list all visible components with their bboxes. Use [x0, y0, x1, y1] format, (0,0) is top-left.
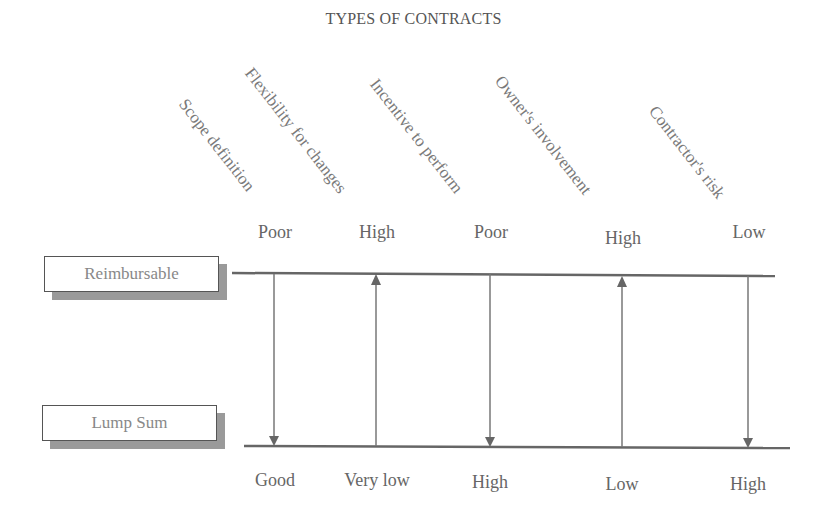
- contract-scale-graphic: [0, 0, 827, 524]
- lump-sum-value-contractor-risk: High: [730, 474, 766, 495]
- lump-sum-value-flexibility: Very low: [344, 470, 410, 491]
- lump-sum-line: [244, 446, 790, 448]
- arrow-down-icon: [485, 437, 495, 447]
- arrow-up-icon: [617, 276, 627, 287]
- lump-sum-value-scope: Good: [255, 470, 295, 491]
- arrow-down-icon: [269, 436, 279, 446]
- lump-sum-value-incentive: High: [472, 472, 508, 493]
- arrow-down-icon: [743, 438, 753, 448]
- lump-sum-value-owner: Low: [606, 474, 639, 495]
- reimbursable-line: [232, 273, 775, 276]
- arrow-up-icon: [371, 274, 381, 285]
